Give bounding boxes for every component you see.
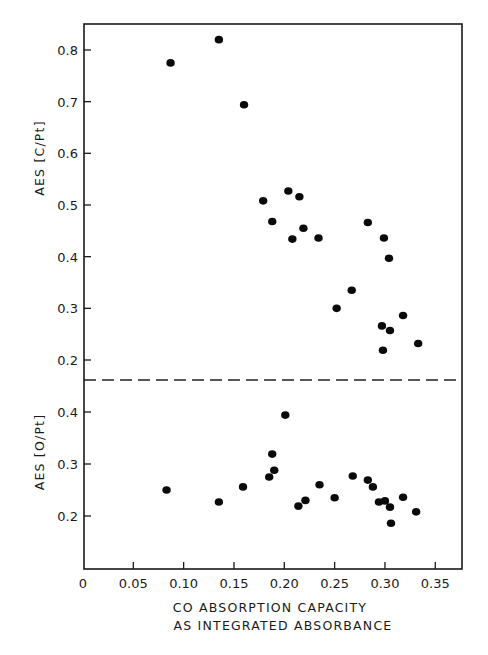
y-tick-label: 0.4 [57,250,78,265]
data-point [294,502,302,510]
data-point [380,234,388,242]
scatter-chart: 00.050.100.150.200.250.300.35 0.20.30.40… [0,0,488,655]
data-point [364,219,372,227]
data-point [387,519,395,527]
data-point [162,486,170,494]
x-tick-label: 0 [79,576,87,591]
data-point [349,472,357,480]
data-point [386,327,394,335]
data-point [270,466,278,474]
chart-canvas: 00.050.100.150.200.250.300.35 0.20.30.40… [0,0,488,655]
x-axis-ticks: 00.050.100.150.200.250.300.35 [79,562,450,591]
data-point [259,197,267,205]
x-tick-label: 0.15 [219,576,248,591]
lower-panel-points [162,411,420,527]
x-tick-label: 0.05 [119,576,148,591]
x-tick-label: 0.30 [370,576,399,591]
upper-y-axis-ticks: 0.20.30.40.50.60.70.8 [57,43,91,368]
data-point [299,224,307,232]
lower-y-axis-title: AES [O/Pt] [32,414,47,491]
data-point [301,497,309,505]
data-point [378,322,386,330]
data-point [332,305,340,313]
y-tick-label: 0.2 [57,353,78,368]
x-tick-label: 0.10 [169,576,198,591]
data-point [166,59,174,67]
data-point [379,346,387,354]
x-axis-title-line2: AS INTEGRATED ABSORBANCE [174,618,393,633]
data-point [284,187,292,195]
plot-frame [84,24,462,569]
data-point [268,450,276,458]
upper-panel-points [166,36,422,354]
x-tick-label: 0.20 [270,576,299,591]
data-point [414,340,422,348]
data-point [215,498,223,506]
data-point [399,312,407,320]
data-point [281,411,289,419]
x-tick-label: 0.35 [421,576,450,591]
y-tick-label: 0.7 [57,95,78,110]
data-point [295,193,303,201]
data-point [364,476,372,484]
data-point [265,473,273,481]
data-point [412,508,420,516]
data-point [385,254,393,262]
data-point [399,493,407,501]
data-point [369,483,377,491]
data-point [268,218,276,226]
data-point [240,101,248,109]
data-point [330,494,338,502]
y-tick-label: 0.3 [57,457,78,472]
data-point [348,286,356,294]
y-tick-label: 0.6 [57,146,78,161]
data-point [314,234,322,242]
y-tick-label: 0.4 [57,405,78,420]
data-point [215,36,223,44]
data-point [315,481,323,489]
y-tick-label: 0.2 [57,509,78,524]
x-axis-title-line1: CO ABSORPTION CAPACITY [173,600,367,615]
data-point [288,235,296,243]
upper-y-axis-title: AES [C/Pt] [32,120,47,196]
data-point [381,497,389,505]
lower-y-axis-ticks: 0.20.30.4 [57,405,91,524]
data-point [239,483,247,491]
data-point [386,503,394,511]
x-tick-label: 0.25 [320,576,349,591]
y-tick-label: 0.5 [57,198,78,213]
y-tick-label: 0.3 [57,301,78,316]
y-tick-label: 0.8 [57,43,78,58]
